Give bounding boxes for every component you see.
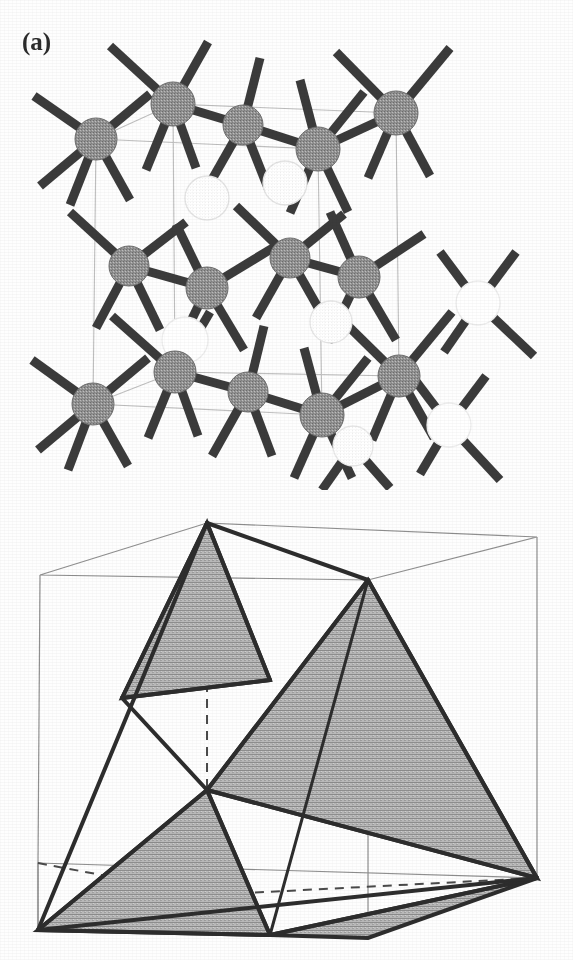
panel-b-tetrahedra-in-cube: (b) [0, 490, 573, 960]
shaded-triangle-lower-left [38, 790, 270, 935]
panel-b-graphic [0, 490, 573, 960]
panel-a-label: (a) [22, 28, 51, 56]
panel-a-crystal-structure: (a) [0, 0, 573, 490]
figure-canvas: (a) [0, 0, 573, 960]
panel-a-graphic [0, 0, 573, 490]
